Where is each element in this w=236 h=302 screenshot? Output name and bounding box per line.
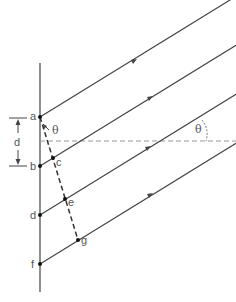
label-g: g [81, 234, 87, 246]
label-e: e [68, 196, 74, 208]
label-d: d [30, 209, 36, 221]
point-b [38, 164, 42, 168]
label-c: c [56, 156, 62, 168]
label-a: a [30, 110, 37, 122]
ray-b [40, 45, 236, 166]
label-b: b [30, 160, 36, 172]
point-e [63, 197, 67, 201]
theta-label-far: θ [195, 123, 202, 136]
point-g [76, 238, 80, 242]
point-c [51, 156, 55, 160]
point-f [38, 262, 42, 266]
ray-a [40, 0, 236, 117]
label-f: f [31, 258, 35, 270]
theta-label-near: θ [52, 124, 59, 137]
path-difference-line [40, 117, 78, 240]
angle-arc [202, 120, 207, 141]
grating-diagram: a b c d e f g d θ θ [0, 0, 236, 302]
arrow-up-icon [16, 119, 21, 125]
point-d [38, 213, 42, 217]
spacing-label: d [14, 136, 20, 148]
point-a [38, 115, 42, 119]
arrow-down-icon [16, 159, 21, 165]
